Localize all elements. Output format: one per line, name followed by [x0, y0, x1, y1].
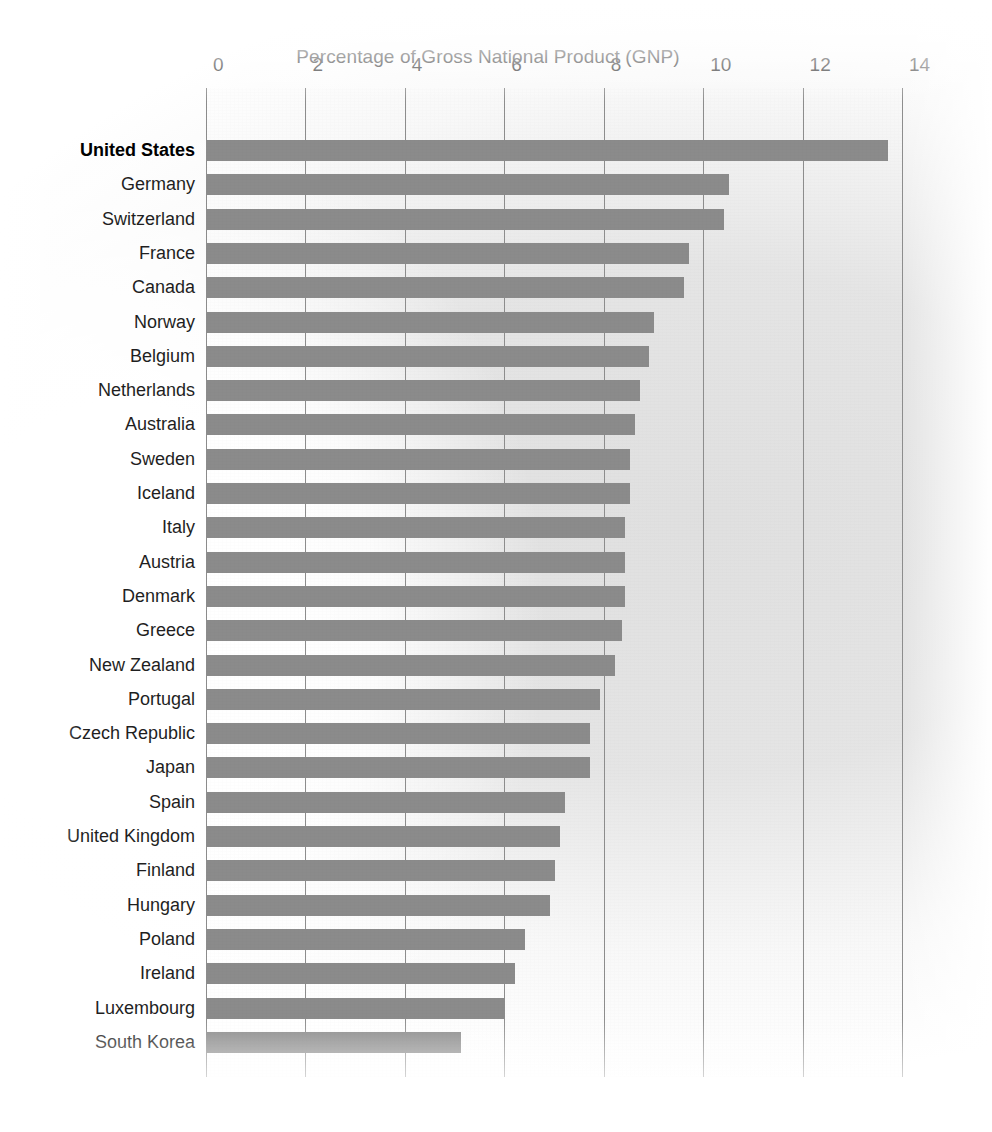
category-label: Japan	[146, 756, 195, 778]
bar	[207, 723, 590, 744]
bar-row: Switzerland	[206, 209, 902, 230]
gridline-14	[902, 88, 903, 1077]
category-label: Germany	[121, 173, 195, 195]
bar-row: Spain	[206, 792, 902, 813]
bar	[207, 312, 654, 333]
category-label: Canada	[132, 276, 195, 298]
bar	[207, 243, 689, 264]
bar-row: United Kingdom	[206, 826, 902, 847]
bar	[207, 449, 630, 470]
category-label: Austria	[139, 551, 195, 573]
chart-title: Percentage of Gross National Product (GN…	[0, 46, 992, 68]
bar	[207, 792, 565, 813]
category-label: France	[139, 242, 195, 264]
x-tick-label-10: 10	[703, 54, 731, 76]
bar	[207, 552, 625, 573]
bar	[207, 483, 630, 504]
category-label: Belgium	[130, 345, 195, 367]
category-label: Portugal	[128, 688, 195, 710]
category-label: Spain	[149, 791, 195, 813]
bar	[207, 620, 622, 641]
category-label: Ireland	[140, 962, 195, 984]
category-label: United States	[80, 139, 195, 161]
x-tick-label-2: 2	[305, 54, 323, 76]
bar-row: Poland	[206, 929, 902, 950]
bar	[207, 895, 550, 916]
bar-row: Greece	[206, 620, 902, 641]
x-tick-label-12: 12	[803, 54, 831, 76]
category-label: Italy	[162, 516, 195, 538]
bar	[207, 277, 684, 298]
bar-row: Sweden	[206, 449, 902, 470]
bar	[207, 929, 525, 950]
bar	[207, 998, 505, 1019]
category-label: Poland	[139, 928, 195, 950]
bar	[207, 517, 625, 538]
category-label: Finland	[136, 859, 195, 881]
bar-row: South Korea	[206, 1032, 902, 1053]
bar	[207, 826, 560, 847]
bar-row: Japan	[206, 757, 902, 778]
bar	[207, 1032, 461, 1053]
x-tick-label-8: 8	[604, 54, 622, 76]
bar-row: Austria	[206, 552, 902, 573]
category-label: Australia	[125, 413, 195, 435]
bar	[207, 655, 615, 676]
category-label: Czech Republic	[69, 722, 195, 744]
category-label: Denmark	[122, 585, 195, 607]
category-label: Hungary	[127, 894, 195, 916]
bar-row: Canada	[206, 277, 902, 298]
bar-row: Italy	[206, 517, 902, 538]
bar-row: Czech Republic	[206, 723, 902, 744]
category-label: United Kingdom	[67, 825, 195, 847]
bar	[207, 689, 600, 710]
bar	[207, 963, 515, 984]
category-label: Switzerland	[102, 208, 195, 230]
chart-page: Percentage of Gross National Product (GN…	[0, 0, 992, 1132]
bar-row: Australia	[206, 414, 902, 435]
x-tick-label-4: 4	[405, 54, 423, 76]
category-label: Sweden	[130, 448, 195, 470]
bar-row: Iceland	[206, 483, 902, 504]
category-label: New Zealand	[89, 654, 195, 676]
bar-row: Ireland	[206, 963, 902, 984]
bar	[207, 140, 888, 161]
category-label: Norway	[134, 311, 195, 333]
bar	[207, 586, 625, 607]
bar-row: Luxembourg	[206, 998, 902, 1019]
bar-row: Netherlands	[206, 380, 902, 401]
bar-row: Denmark	[206, 586, 902, 607]
category-label: Iceland	[137, 482, 195, 504]
bar-row: Hungary	[206, 895, 902, 916]
x-tick-label-6: 6	[504, 54, 522, 76]
bar-row: Belgium	[206, 346, 902, 367]
plot-area: 02468101214 United StatesGermanySwitzerl…	[206, 88, 902, 1077]
bar	[207, 860, 555, 881]
bar-row: New Zealand	[206, 655, 902, 676]
x-tick-label-0: 0	[206, 54, 224, 76]
bar	[207, 757, 590, 778]
category-label: South Korea	[95, 1031, 195, 1053]
bar-rows: United StatesGermanySwitzerlandFranceCan…	[206, 88, 902, 1077]
bar-row: Finland	[206, 860, 902, 881]
bar-row: Norway	[206, 312, 902, 333]
bar	[207, 414, 635, 435]
bar	[207, 209, 724, 230]
category-label: Luxembourg	[95, 997, 195, 1019]
bar-row: France	[206, 243, 902, 264]
x-tick-label-14: 14	[902, 54, 930, 76]
bar	[207, 174, 729, 195]
bar	[207, 346, 649, 367]
category-label: Greece	[136, 619, 195, 641]
bar	[207, 380, 640, 401]
bar-row: Germany	[206, 174, 902, 195]
bar-row: United States	[206, 140, 902, 161]
category-label: Netherlands	[98, 379, 195, 401]
bar-row: Portugal	[206, 689, 902, 710]
